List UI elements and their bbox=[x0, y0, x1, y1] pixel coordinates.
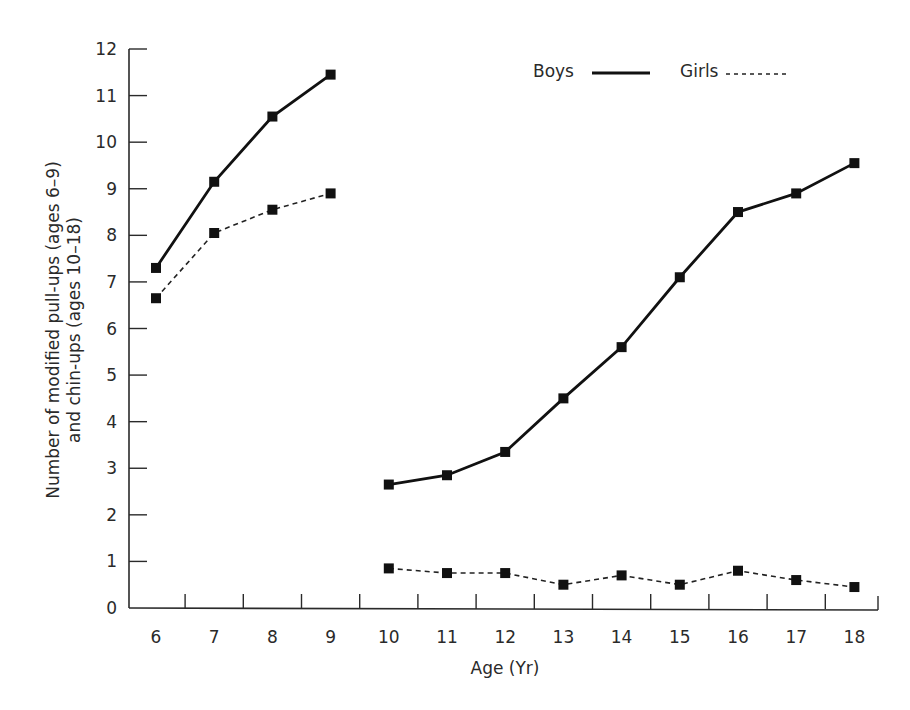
series-line bbox=[389, 163, 855, 484]
y-tick-label: 1 bbox=[106, 551, 117, 571]
y-tick-label: 6 bbox=[106, 319, 117, 339]
data-point-marker bbox=[500, 568, 510, 578]
data-point-marker bbox=[209, 177, 219, 187]
data-point-marker bbox=[267, 112, 277, 122]
y-tick-label: 2 bbox=[106, 505, 117, 525]
series-boys bbox=[151, 70, 859, 490]
data-point-marker bbox=[733, 207, 743, 217]
data-point-marker bbox=[558, 393, 568, 403]
data-point-marker bbox=[791, 188, 801, 198]
y-tick-label: 9 bbox=[106, 179, 117, 199]
x-tick-label: 11 bbox=[436, 627, 458, 647]
series-girls bbox=[151, 188, 859, 592]
data-point-marker bbox=[617, 570, 627, 580]
x-tick-label: 6 bbox=[151, 627, 162, 647]
y-tick-label: 7 bbox=[106, 272, 117, 292]
y-tick-label: 5 bbox=[106, 365, 117, 385]
x-axis: 6789101112131415161718 bbox=[129, 594, 878, 647]
y-tick-label: 10 bbox=[95, 132, 117, 152]
series-line bbox=[156, 75, 331, 268]
data-point-marker bbox=[384, 480, 394, 490]
x-tick-label: 10 bbox=[378, 627, 400, 647]
data-point-marker bbox=[791, 575, 801, 585]
data-point-marker bbox=[326, 188, 336, 198]
data-point-marker bbox=[151, 293, 161, 303]
legend-girls-label: Girls bbox=[680, 61, 719, 81]
data-point-marker bbox=[442, 470, 452, 480]
x-tick-label: 7 bbox=[209, 627, 220, 647]
data-point-marker bbox=[849, 158, 859, 168]
x-axis-line bbox=[129, 608, 878, 610]
legend: Boys Girls bbox=[533, 61, 786, 81]
y-tick-label: 4 bbox=[106, 412, 117, 432]
y-axis: 0123456789101112 bbox=[95, 39, 147, 618]
y-axis-title-line-1: Number of modified pull-ups (ages 6–9) bbox=[43, 161, 63, 499]
x-tick-label: 18 bbox=[844, 627, 866, 647]
data-point-marker bbox=[849, 582, 859, 592]
y-axis-title-line-2: and chin-ups (ages 10–18) bbox=[64, 217, 84, 443]
data-point-marker bbox=[326, 70, 336, 80]
x-tick-label: 12 bbox=[494, 627, 516, 647]
data-point-marker bbox=[617, 342, 627, 352]
series-line bbox=[156, 193, 331, 298]
data-point-marker bbox=[733, 566, 743, 576]
data-point-marker bbox=[500, 447, 510, 457]
x-tick-label: 16 bbox=[727, 627, 749, 647]
line-chart: 0123456789101112 6789101112131415161718 … bbox=[0, 0, 910, 710]
x-tick-label: 17 bbox=[785, 627, 807, 647]
y-tick-label: 3 bbox=[106, 458, 117, 478]
data-point-marker bbox=[558, 580, 568, 590]
x-tick-label: 13 bbox=[553, 627, 575, 647]
data-point-marker bbox=[151, 263, 161, 273]
x-tick-label: 14 bbox=[611, 627, 633, 647]
x-axis-title: Age (Yr) bbox=[471, 658, 540, 678]
data-point-marker bbox=[209, 228, 219, 238]
data-point-marker bbox=[442, 568, 452, 578]
x-tick-label: 9 bbox=[325, 627, 336, 647]
y-tick-label: 0 bbox=[106, 598, 117, 618]
y-tick-label: 8 bbox=[106, 225, 117, 245]
y-tick-label: 12 bbox=[95, 39, 117, 59]
data-point-marker bbox=[384, 563, 394, 573]
y-axis-title: Number of modified pull-ups (ages 6–9) a… bbox=[43, 161, 84, 499]
data-point-marker bbox=[267, 205, 277, 215]
series-layer bbox=[151, 70, 859, 592]
x-tick-label: 8 bbox=[267, 627, 278, 647]
data-point-marker bbox=[675, 272, 685, 282]
x-tick-label: 15 bbox=[669, 627, 691, 647]
legend-boys-label: Boys bbox=[533, 61, 574, 81]
data-point-marker bbox=[675, 580, 685, 590]
y-tick-label: 11 bbox=[95, 86, 117, 106]
